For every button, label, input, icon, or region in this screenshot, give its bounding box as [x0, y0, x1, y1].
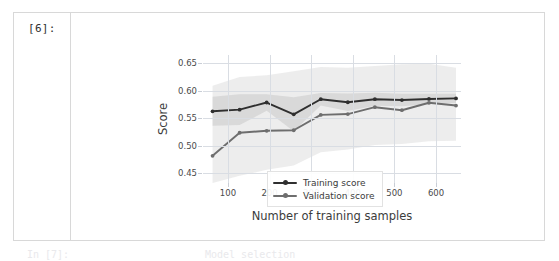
x-tick-label: 100: [220, 188, 236, 198]
confidence-band: [213, 64, 456, 183]
cell-prompt-gutter: [6]:: [14, 13, 71, 240]
data-point-marker: [427, 101, 431, 105]
x-tick-mark: [394, 183, 395, 187]
gridline-vertical: [228, 55, 229, 183]
legend-item-training[interactable]: Training score: [273, 176, 375, 189]
y-tick-mark: [198, 173, 202, 174]
matplotlib-figure: Score Number of training samples 0.450.5…: [71, 13, 544, 240]
legend-label-training: Training score: [303, 178, 366, 188]
y-tick-label: 0.55: [178, 113, 197, 123]
plot-axes: 0.450.500.550.600.65100200300400500600: [203, 55, 461, 183]
legend-line-icon-training: [273, 178, 297, 188]
data-point-marker: [211, 109, 215, 113]
data-point-marker: [346, 112, 350, 116]
data-point-marker: [319, 113, 323, 117]
gridline-vertical: [394, 55, 395, 183]
data-point-marker: [211, 154, 215, 158]
data-point-marker: [265, 101, 269, 105]
y-tick-label: 0.65: [178, 58, 197, 68]
notebook-output-cell[interactable]: [6]: Score Number of training samples 0.…: [13, 12, 545, 241]
cell-execution-count-label[interactable]: [6]:: [28, 22, 56, 35]
x-axis-label: Number of training samples: [203, 209, 461, 223]
gridline-vertical: [353, 55, 354, 183]
y-tick-label: 0.45: [178, 168, 197, 178]
gridline-horizontal: [203, 91, 461, 92]
next-cell-partial-row: In [7]: Model selection: [13, 250, 545, 261]
data-point-marker: [346, 100, 350, 104]
data-point-marker: [238, 131, 242, 135]
screenshot-root: [6]: Score Number of training samples 0.…: [0, 0, 559, 261]
data-point-marker: [400, 98, 404, 102]
data-point-marker: [373, 97, 377, 101]
gridline-vertical: [270, 55, 271, 183]
y-tick-mark: [198, 63, 202, 64]
y-axis-label: Score: [156, 103, 170, 135]
x-tick-label: 600: [428, 188, 444, 198]
y-tick-label: 0.50: [178, 141, 197, 151]
cell-output-area: Score Number of training samples 0.450.5…: [71, 13, 544, 240]
legend-label-validation: Validation score: [303, 191, 375, 201]
gridline-horizontal: [203, 146, 461, 147]
y-tick-mark: [198, 118, 202, 119]
next-cell-text-fragment: Model selection: [205, 250, 295, 260]
legend-line-icon-validation: [273, 191, 297, 201]
gridline-vertical: [311, 55, 312, 183]
data-point-marker: [319, 97, 323, 101]
data-point-marker: [454, 97, 458, 101]
x-tick-label: 500: [386, 188, 402, 198]
gridline-vertical: [436, 55, 437, 183]
data-point-marker: [427, 97, 431, 101]
y-tick-mark: [198, 91, 202, 92]
gridline-horizontal: [203, 118, 461, 119]
y-tick-label: 0.60: [178, 86, 197, 96]
data-point-marker: [238, 108, 242, 112]
data-point-marker: [292, 112, 296, 116]
x-tick-mark: [436, 183, 437, 187]
x-tick-mark: [228, 183, 229, 187]
data-point-marker: [292, 128, 296, 132]
chart-legend[interactable]: Training score Validation score: [267, 171, 383, 207]
data-point-marker: [454, 104, 458, 108]
data-point-marker: [265, 129, 269, 133]
legend-item-validation[interactable]: Validation score: [273, 189, 375, 202]
data-point-marker: [373, 105, 377, 109]
gridline-horizontal: [203, 63, 461, 64]
y-tick-mark: [198, 146, 202, 147]
next-cell-prompt-fragment: In [7]:: [27, 250, 69, 260]
data-point-marker: [400, 108, 404, 112]
